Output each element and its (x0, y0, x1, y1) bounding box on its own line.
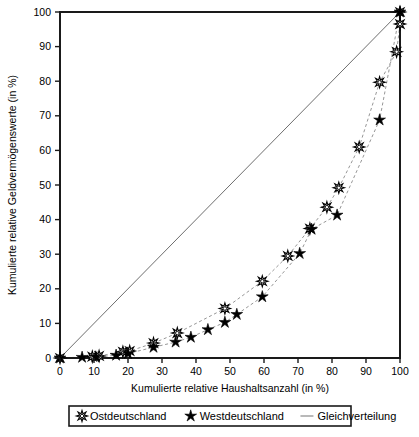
data-point-marker-core (325, 205, 328, 208)
data-point-marker-core (261, 279, 264, 282)
x-axis-title: Kumulierte relative Haushaltsanzahl (in … (131, 382, 329, 394)
y-axis-tick-label: 60 (39, 144, 51, 156)
data-point-marker-core (223, 307, 226, 310)
chart-legend: OstdeutschlandWestdeutschlandGleichverte… (69, 406, 396, 426)
data-point-marker-core (378, 81, 381, 84)
data-point-marker-core (337, 186, 340, 189)
y-axis-tick-label: 80 (39, 75, 51, 87)
legend-item-ostdeutschland[interactable]: Ostdeutschland (76, 410, 166, 422)
y-axis-tick-label: 0 (45, 352, 51, 364)
x-axis-tick-label: 20 (122, 365, 134, 377)
x-axis-tick-label: 60 (258, 365, 270, 377)
x-axis-tick-label: 70 (292, 365, 304, 377)
x-axis-title-text: Kumulierte relative Haushaltsanzahl (in … (131, 382, 329, 394)
x-axis-tick-label: 80 (326, 365, 338, 377)
data-point-marker-core (176, 331, 179, 334)
y-axis-tick-label: 30 (39, 248, 51, 260)
x-axis-tick-label: 30 (156, 365, 168, 377)
chart-canvas: 0102030405060708090100 01020304050607080… (0, 0, 419, 437)
y-axis-tick-label: 40 (39, 213, 51, 225)
legend-item-label: Gleichverteilung (317, 410, 396, 422)
y-axis-tick-label: 100 (33, 6, 51, 18)
x-axis-tick-label: 100 (391, 365, 409, 377)
lorenz-curve-figure: 0102030405060708090100 01020304050607080… (0, 0, 419, 437)
data-point-marker-core (80, 414, 83, 417)
y-axis-tick-label: 10 (39, 317, 51, 329)
x-axis-tick-label: 90 (360, 365, 372, 377)
y-axis-tick-label: 20 (39, 282, 51, 294)
data-point-marker-core (358, 145, 361, 148)
y-axis-tick-label: 50 (39, 179, 51, 191)
data-point-marker-core (286, 254, 289, 257)
x-axis-tick-label: 40 (190, 365, 202, 377)
data-point-marker-core (398, 22, 401, 25)
data-point-marker-core (395, 50, 398, 53)
legend-item-westdeutschland[interactable]: Westdeutschland (185, 410, 284, 422)
legend-item-label: Ostdeutschland (90, 410, 166, 422)
x-axis-tick-label: 10 (88, 365, 100, 377)
y-axis-title-text: Kumulierte relative Geldvermögenswerte (… (6, 75, 18, 295)
y-axis-tick-label: 90 (39, 40, 51, 52)
x-axis-tick-label: 0 (57, 365, 63, 377)
y-axis-tick-label: 70 (39, 109, 51, 121)
y-axis-title: Kumulierte relative Geldvermögenswerte (… (6, 75, 18, 295)
x-axis-tick-label: 50 (224, 365, 236, 377)
legend-item-label: Westdeutschland (200, 410, 284, 422)
y-axis: 0102030405060708090100 (33, 6, 60, 364)
x-axis: 0102030405060708090100 (57, 358, 409, 377)
